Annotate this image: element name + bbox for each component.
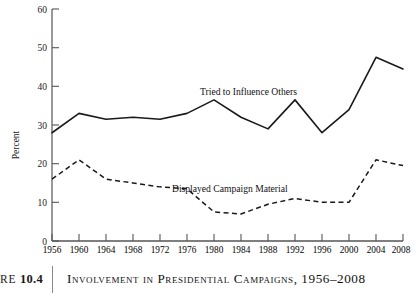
figure-number-block: RE 10.4 [0,272,52,287]
figure-number: 10.4 [20,272,43,286]
x-tick-label-1984: 1984 [232,245,251,255]
y-tick-label-60: 60 [38,5,48,15]
y-tick-label-30: 30 [38,121,48,131]
y-tick-label-10: 10 [38,198,48,208]
x-tick-label-1996: 1996 [313,245,332,255]
y-tick-label-40: 40 [38,82,48,92]
x-tick-label-2000: 2000 [340,245,359,255]
chart-plot-area: 60 50 40 30 20 10 0 Percent [0,0,416,258]
x-tick-label-2008: 2008 [392,245,411,255]
x-tick-label-1964: 1964 [97,245,116,255]
figure-container: 60 50 40 30 20 10 0 Percent [0,0,416,296]
figure-caption-title: Involvement in Presidential Campaigns, 1… [53,271,366,287]
x-tick-label-1968: 1968 [124,245,143,255]
x-tick-label-1980: 1980 [205,245,224,255]
x-tick-label-1976: 1976 [178,245,197,255]
y-axis-ticks [52,9,59,241]
figure-caption: RE 10.4 Involvement in Presidential Camp… [0,262,416,296]
x-tick-label-1992: 1992 [286,245,305,255]
x-tick-label-1960: 1960 [70,245,89,255]
y-axis-title: Percent [11,130,21,159]
line-chart-svg: 60 50 40 30 20 10 0 Percent [0,0,416,258]
x-tick-label-1956: 1956 [43,245,62,255]
x-tick-label-2004: 2004 [367,245,386,255]
x-tick-label-1972: 1972 [151,245,170,255]
series-annotation-displayed-campaign-material: Displayed Campaign Material [172,183,288,194]
y-tick-label-20: 20 [38,159,48,169]
series-annotation-tried-to-influence-others: Tried to Influence Others [200,86,297,97]
figure-label: RE [0,273,17,285]
y-tick-label-50: 50 [38,43,48,53]
x-axis-ticks [52,234,403,241]
x-tick-label-1988: 1988 [259,245,278,255]
